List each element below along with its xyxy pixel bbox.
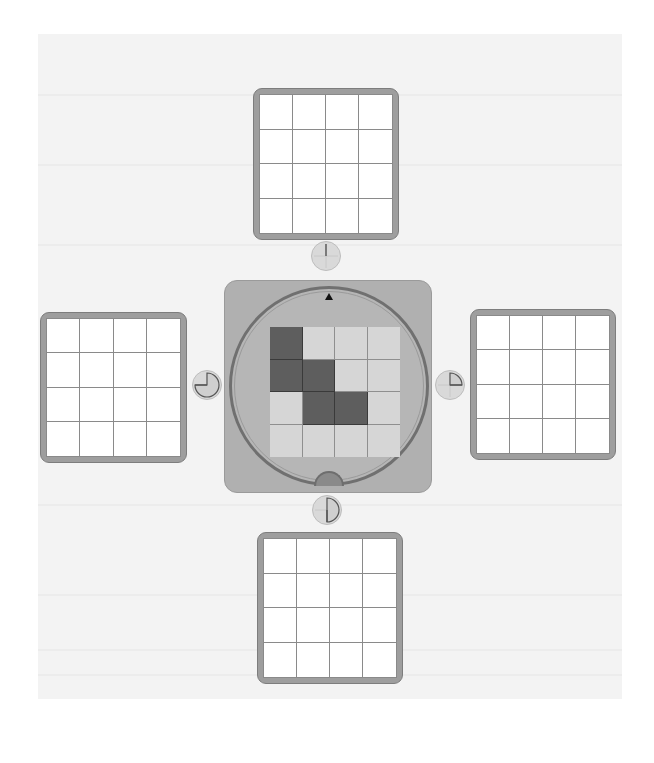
- board-cell[interactable]: [543, 385, 576, 419]
- board-cell[interactable]: [543, 419, 576, 453]
- board-cell[interactable]: [293, 164, 326, 199]
- dial-handle-notch[interactable]: [314, 471, 344, 486]
- board-cell[interactable]: [297, 539, 330, 574]
- board-cell[interactable]: [363, 539, 396, 574]
- board-grid: [46, 318, 181, 457]
- board-cell[interactable]: [297, 608, 330, 643]
- board-grid: [476, 315, 610, 454]
- piece-cell-filled: [270, 360, 303, 393]
- board-cell[interactable]: [359, 164, 392, 199]
- board-cell[interactable]: [543, 350, 576, 384]
- board-cell[interactable]: [293, 199, 326, 234]
- rotate-90-button[interactable]: [435, 370, 465, 400]
- board-grid: [263, 538, 397, 678]
- board-cell[interactable]: [47, 388, 80, 422]
- board-cell[interactable]: [330, 539, 363, 574]
- board-cell[interactable]: [47, 353, 80, 387]
- board-cell[interactable]: [293, 95, 326, 130]
- center-piece-panel[interactable]: [224, 280, 432, 493]
- board-cell[interactable]: [147, 422, 180, 456]
- board-cell[interactable]: [297, 643, 330, 678]
- board-cell[interactable]: [363, 574, 396, 609]
- board-cell[interactable]: [576, 419, 609, 453]
- piece-cell-empty: [270, 392, 303, 425]
- piece-cell-empty: [368, 327, 401, 360]
- board-cell[interactable]: [47, 319, 80, 353]
- board-grid: [259, 94, 393, 234]
- rotation-dial[interactable]: [229, 286, 429, 486]
- board-cell[interactable]: [326, 95, 359, 130]
- board-cell[interactable]: [260, 130, 293, 165]
- board-cell[interactable]: [477, 316, 510, 350]
- piece-cell-empty: [368, 425, 401, 458]
- piece-cell-empty: [368, 392, 401, 425]
- board-cell[interactable]: [510, 316, 543, 350]
- board-cell[interactable]: [477, 350, 510, 384]
- board-cell[interactable]: [576, 350, 609, 384]
- target-board-top[interactable]: [253, 88, 399, 240]
- board-cell[interactable]: [147, 319, 180, 353]
- piece-cell-empty: [303, 327, 336, 360]
- rotate-180-icon: [313, 496, 341, 524]
- board-cell[interactable]: [260, 95, 293, 130]
- up-triangle-icon: [325, 293, 333, 300]
- board-cell[interactable]: [363, 608, 396, 643]
- board-cell[interactable]: [264, 608, 297, 643]
- board-cell[interactable]: [264, 539, 297, 574]
- board-cell[interactable]: [80, 388, 113, 422]
- board-cell[interactable]: [326, 164, 359, 199]
- piece-cell-empty: [335, 360, 368, 393]
- board-cell[interactable]: [114, 353, 147, 387]
- board-cell[interactable]: [80, 353, 113, 387]
- board-cell[interactable]: [260, 199, 293, 234]
- piece-cell-empty: [368, 360, 401, 393]
- piece-cell-empty: [303, 425, 336, 458]
- board-cell[interactable]: [477, 385, 510, 419]
- board-cell[interactable]: [477, 419, 510, 453]
- board-cell[interactable]: [363, 643, 396, 678]
- piece-cell-filled: [303, 392, 336, 425]
- board-cell[interactable]: [264, 643, 297, 678]
- target-board-left[interactable]: [40, 312, 187, 463]
- board-cell[interactable]: [326, 199, 359, 234]
- board-cell[interactable]: [330, 574, 363, 609]
- board-cell[interactable]: [114, 319, 147, 353]
- board-cell[interactable]: [80, 319, 113, 353]
- board-cell[interactable]: [80, 422, 113, 456]
- piece-cell-empty: [270, 425, 303, 458]
- board-cell[interactable]: [359, 130, 392, 165]
- board-cell[interactable]: [510, 385, 543, 419]
- board-cell[interactable]: [147, 353, 180, 387]
- board-cell[interactable]: [510, 419, 543, 453]
- board-cell[interactable]: [576, 385, 609, 419]
- board-cell[interactable]: [543, 316, 576, 350]
- board-cell[interactable]: [114, 422, 147, 456]
- board-cell[interactable]: [330, 643, 363, 678]
- piece-cell-filled: [270, 327, 303, 360]
- board-cell[interactable]: [359, 95, 392, 130]
- board-cell[interactable]: [260, 164, 293, 199]
- board-cell[interactable]: [114, 388, 147, 422]
- rotate-270-icon: [193, 371, 221, 399]
- rotate-90-icon: [436, 371, 464, 399]
- rotate-270-button[interactable]: [192, 370, 222, 400]
- target-board-right[interactable]: [470, 309, 616, 460]
- piece-grid[interactable]: [270, 327, 400, 457]
- target-board-bottom[interactable]: [257, 532, 403, 684]
- piece-cell-filled: [303, 360, 336, 393]
- piece-cell-filled: [335, 392, 368, 425]
- piece-cell-empty: [335, 327, 368, 360]
- board-cell[interactable]: [47, 422, 80, 456]
- board-cell[interactable]: [293, 130, 326, 165]
- board-cell[interactable]: [510, 350, 543, 384]
- board-cell[interactable]: [576, 316, 609, 350]
- board-cell[interactable]: [264, 574, 297, 609]
- rotate-0-button[interactable]: [311, 241, 341, 271]
- board-cell[interactable]: [359, 199, 392, 234]
- board-cell[interactable]: [326, 130, 359, 165]
- board-cell[interactable]: [297, 574, 330, 609]
- piece-cell-empty: [335, 425, 368, 458]
- rotate-180-button[interactable]: [312, 495, 342, 525]
- board-cell[interactable]: [147, 388, 180, 422]
- board-cell[interactable]: [330, 608, 363, 643]
